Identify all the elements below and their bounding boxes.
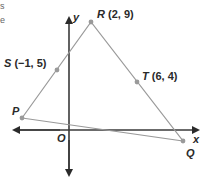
- diagram-canvas: [0, 0, 207, 182]
- label-T-name: T: [142, 70, 149, 82]
- origin-label: O: [57, 133, 66, 144]
- label-R-name: R: [97, 8, 105, 20]
- y-axis-label: y: [73, 12, 79, 23]
- label-R: R (2, 9): [97, 9, 134, 20]
- label-P: P: [12, 106, 19, 117]
- point-Q: [181, 139, 186, 144]
- label-S: S (−1, 5): [4, 58, 47, 69]
- coordinate-diagram: s e y x O R (2, 9) S (−1, 5) T (6, 4) P …: [0, 0, 207, 182]
- label-T-coords: (6, 4): [152, 70, 178, 82]
- label-T: T (6, 4): [142, 71, 177, 82]
- point-R: [89, 20, 94, 25]
- label-Q: Q: [186, 148, 195, 159]
- point-T: [135, 80, 140, 85]
- label-S-name: S: [4, 57, 11, 69]
- cropped-text-fragment: e: [0, 16, 5, 25]
- point-S: [55, 68, 60, 73]
- point-P: [20, 116, 25, 121]
- x-axis-label: x: [193, 134, 199, 145]
- cropped-text-fragment: s: [0, 2, 5, 11]
- label-R-coords: (2, 9): [108, 8, 134, 20]
- label-S-coords: (−1, 5): [14, 57, 46, 69]
